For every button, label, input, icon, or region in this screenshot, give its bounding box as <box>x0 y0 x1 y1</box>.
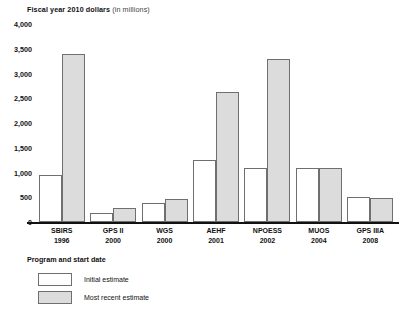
chart-title-bold: Fiscal year 2010 dollars <box>27 5 110 14</box>
bar-group <box>345 24 396 222</box>
x-axis-line <box>27 222 399 224</box>
bar-initial-estimate <box>296 168 319 222</box>
bar-initial-estimate <box>39 175 62 222</box>
x-tick-label: GPS II2000 <box>103 226 124 245</box>
legend-label-recent: Most recent estimate <box>84 294 149 301</box>
y-tick-label: 4,000 <box>14 20 32 29</box>
bar-most-recent-estimate <box>267 59 290 222</box>
white-swatch-icon <box>38 273 72 286</box>
y-tick-label: 2,000 <box>14 119 32 128</box>
bar-group <box>293 24 344 222</box>
bar-most-recent-estimate <box>165 199 188 222</box>
legend-label-initial: Initial estimate <box>84 276 129 283</box>
bar-group <box>139 24 190 222</box>
bar-most-recent-estimate <box>113 208 136 222</box>
x-tick-label: WGS2000 <box>156 226 173 245</box>
y-tick-label: 3,500 <box>14 44 32 53</box>
bar-most-recent-estimate <box>319 168 342 222</box>
bar-initial-estimate <box>244 168 267 222</box>
bar-group <box>36 24 87 222</box>
bar-group <box>242 24 293 222</box>
y-tick-label: 500 <box>20 193 32 202</box>
chart-title: Fiscal year 2010 dollars (in millions) <box>27 5 150 14</box>
x-axis-caption: Program and start date <box>27 255 106 264</box>
x-tick-label: SBIRS1996 <box>51 226 72 245</box>
bar-initial-estimate <box>90 213 113 222</box>
bar-initial-estimate <box>193 160 216 222</box>
chart-legend: Initial estimate Most recent estimate <box>38 272 149 308</box>
bar-initial-estimate <box>142 203 165 222</box>
bar-group <box>190 24 241 222</box>
legend-item-recent: Most recent estimate <box>38 290 149 305</box>
bar-most-recent-estimate <box>216 92 239 222</box>
x-tick-label: GPS IIIA2008 <box>356 226 384 245</box>
bar-most-recent-estimate <box>370 198 393 222</box>
x-axis-labels: SBIRS1996GPS II2000WGS2000AEHF2001NPOESS… <box>36 226 396 252</box>
bar-initial-estimate <box>347 197 370 222</box>
bar-chart: Fiscal year 2010 dollars (in millions) 0… <box>0 0 407 309</box>
bar-group <box>87 24 138 222</box>
bar-most-recent-estimate <box>62 54 85 222</box>
y-tick-label: 1,500 <box>14 143 32 152</box>
y-tick-label: 3,000 <box>14 69 32 78</box>
y-tick-label: 2,500 <box>14 94 32 103</box>
legend-item-initial: Initial estimate <box>38 272 149 287</box>
gray-swatch-icon <box>38 291 72 304</box>
x-tick-label: MUOS2004 <box>308 226 329 245</box>
y-tick-label: 1,000 <box>14 168 32 177</box>
x-tick-label: AEHF2001 <box>206 226 225 245</box>
x-tick-label: NPOESS2002 <box>253 226 282 245</box>
plot-area <box>36 24 396 222</box>
chart-title-unit: (in millions) <box>110 5 150 14</box>
